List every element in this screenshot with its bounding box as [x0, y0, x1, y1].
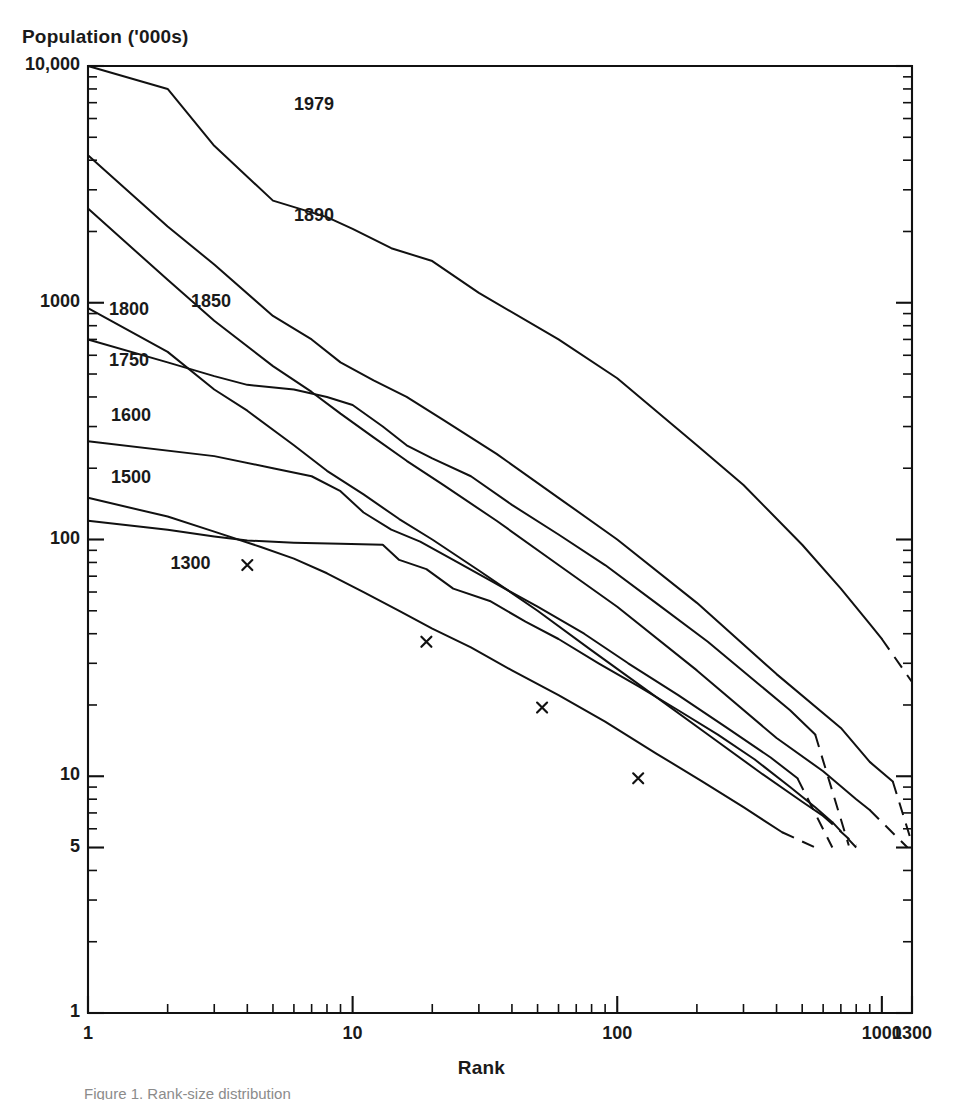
x-tick-label: 1 — [43, 1023, 133, 1044]
data-point-markers — [242, 560, 643, 783]
series-line-dashed-1500 — [782, 832, 815, 847]
series-line-1750 — [88, 339, 815, 734]
data-marker-x — [537, 703, 547, 713]
plot-area — [0, 0, 963, 1100]
plot-frame — [88, 66, 912, 1013]
y-tick-label: 1 — [70, 1001, 80, 1022]
y-tick-label: 100 — [50, 528, 80, 549]
data-marker-x — [421, 637, 431, 647]
data-marker-x — [633, 773, 643, 783]
axis-ticks — [88, 66, 912, 1013]
series-line-dashed-1600 — [798, 778, 833, 847]
figure-caption: Figure 1. Rank-size distribution — [84, 1085, 291, 1100]
x-tick-label: 1300 — [867, 1023, 957, 1044]
y-axis-title: Population ('000s) — [22, 26, 188, 48]
y-tick-label: 1000 — [40, 291, 80, 312]
series-label-1750: 1750 — [109, 350, 149, 371]
x-tick-label: 10 — [308, 1023, 398, 1044]
series-lines — [88, 66, 912, 848]
rank-size-chart-figure: Population ('000s) Rank 1510100100010,00… — [0, 0, 963, 1100]
series-line-1600 — [88, 441, 798, 778]
y-tick-label: 5 — [70, 836, 80, 857]
series-label-1500: 1500 — [111, 467, 151, 488]
series-line-dashed-1750 — [815, 735, 849, 846]
series-line-dashed-1979 — [882, 639, 912, 682]
series-label-1600: 1600 — [111, 405, 151, 426]
series-label-1979: 1979 — [294, 94, 334, 115]
series-line-1500 — [88, 498, 782, 832]
series-label-1890: 1890 — [294, 205, 334, 226]
x-axis-title: Rank — [0, 1057, 963, 1079]
series-label-1800: 1800 — [109, 299, 149, 320]
series-label-1300: 1300 — [171, 553, 211, 574]
data-marker-x — [242, 560, 252, 570]
series-line-1890 — [88, 155, 893, 781]
y-tick-label: 10 — [60, 764, 80, 785]
x-tick-label: 100 — [572, 1023, 662, 1044]
series-line-dashed-1850 — [870, 810, 908, 847]
series-label-1850: 1850 — [191, 291, 231, 312]
y-tick-label: 10,000 — [25, 54, 80, 75]
